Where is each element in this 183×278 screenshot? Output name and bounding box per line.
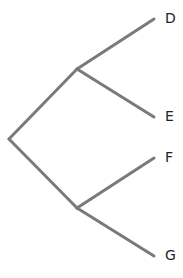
leaf-label-e: E	[165, 109, 174, 123]
leaf-label-g: G	[165, 248, 176, 262]
tree-diagram	[0, 0, 183, 278]
edge-lower-g	[77, 208, 154, 256]
edge-lower-f	[77, 158, 154, 208]
edge-root-upper	[9, 69, 77, 139]
leaf-label-f: F	[165, 150, 173, 164]
edge-root-lower	[9, 139, 77, 208]
edge-upper-d	[77, 19, 154, 69]
leaf-label-d: D	[165, 11, 176, 25]
edge-upper-e	[77, 69, 154, 117]
